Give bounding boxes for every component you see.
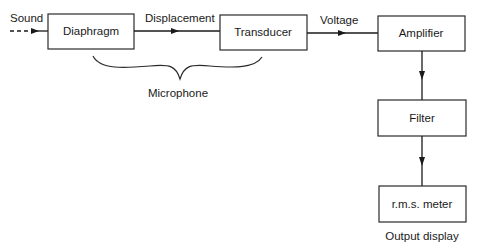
block-diaphragm: Diaphragm (48, 14, 134, 49)
voltage-arrow-icon (338, 30, 346, 36)
block-amplifier: Amplifier (378, 16, 465, 51)
block-rms-meter: r.m.s. meter (379, 186, 466, 222)
signal-chain-diagram: Sound Diaphragm Displacement Transducer … (0, 0, 478, 252)
sound-arrow-icon (31, 28, 39, 34)
block-amplifier-label: Amplifier (399, 27, 444, 39)
block-filter-label: Filter (409, 112, 435, 124)
microphone-brace (93, 56, 262, 79)
microphone-label: Microphone (148, 87, 208, 99)
output-display-caption: Output display (385, 230, 459, 242)
block-transducer-label: Transducer (234, 26, 292, 38)
sound-label: Sound (10, 12, 43, 24)
block-diaphragm-label: Diaphragm (63, 25, 119, 37)
filter-meter-arrow-icon (419, 157, 425, 166)
voltage-label: Voltage (320, 14, 358, 26)
displacement-arrow-icon (171, 28, 179, 34)
block-rms-meter-label: r.m.s. meter (392, 198, 453, 210)
amplifier-filter-arrow-icon (419, 71, 425, 80)
displacement-label: Displacement (145, 12, 215, 24)
block-filter: Filter (378, 100, 466, 136)
block-transducer: Transducer (220, 15, 307, 50)
